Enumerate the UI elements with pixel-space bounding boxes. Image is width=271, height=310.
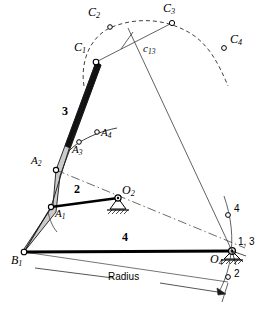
radius-leader-left (35, 268, 113, 278)
center-line-dashdot (56, 170, 245, 248)
marker-circle-4 (226, 213, 231, 218)
point-label-B1-sub: 1 (18, 259, 22, 268)
label-c13-sub: 13 (148, 47, 155, 56)
point-label-O2: O2 (122, 184, 135, 198)
point-label-A1-sub: 1 (62, 212, 66, 221)
point-label-C1: C1 (74, 41, 86, 55)
point-label-C2: C2 (88, 6, 100, 20)
link-4-bar (24, 251, 232, 252)
point-label-A2-sub: 2 (38, 159, 42, 168)
coupler-curve-dashed (83, 21, 228, 86)
point-label-C2-sub: 2 (96, 11, 100, 20)
joint-markers (21, 20, 226, 254)
pivot-label-1-3: 1, 3 (238, 237, 255, 247)
point-label-A3-sub: 3 (79, 148, 83, 157)
point-label-O2-sub: 2 (131, 189, 135, 198)
label-c13: c13 (143, 43, 155, 56)
point-label-C3: C3 (163, 2, 175, 16)
link-4-label: 4 (122, 231, 128, 243)
pivot-label-4: 4 (234, 204, 240, 214)
point-label-C4: C4 (230, 33, 242, 47)
link-2-label: 2 (74, 183, 80, 195)
kinematic-diagram: C1 C2 C3 C4 A1 A2 A3 A4 B1 O2 O4 c13 2 3… (0, 0, 271, 310)
point-label-O4-sub: 4 (219, 258, 223, 267)
link-3-lower-edge (24, 207, 51, 252)
point-label-A3: A3 (72, 144, 82, 157)
point-label-B1: B1 (11, 254, 22, 268)
point-label-C3-sub: 3 (171, 7, 175, 16)
link-3-label: 3 (62, 105, 68, 117)
radius-leader-right (160, 283, 224, 293)
marker-circle-2 (226, 275, 231, 280)
point-label-O4: O4 (210, 253, 223, 267)
pivot-label-2: 2 (234, 269, 240, 279)
point-label-C1-sub: 1 (82, 46, 86, 55)
point-label-A2: A2 (31, 155, 41, 168)
point-label-A1: A1 (55, 208, 65, 221)
radius-label: Radius (108, 272, 139, 282)
point-label-A4: A4 (101, 127, 111, 140)
point-label-A4-sub: 4 (108, 131, 112, 140)
point-label-C4-sub: 4 (238, 38, 242, 47)
link-2-bar (51, 198, 118, 207)
